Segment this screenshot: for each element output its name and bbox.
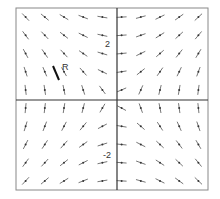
segment-dot [63, 180, 65, 182]
segment-dot [121, 16, 123, 18]
segment-dot [178, 180, 180, 182]
segment-dot [44, 144, 46, 146]
segment-dot [140, 107, 142, 109]
segment-dot [82, 107, 84, 109]
segment-dot [25, 16, 27, 18]
y-tick-label-positive: 2 [105, 39, 110, 49]
segment-dot [178, 71, 180, 73]
segment-dot [44, 89, 46, 91]
segment-dot [121, 125, 123, 127]
segment-dot [140, 53, 142, 55]
segment-dot [63, 16, 65, 18]
segment-dot [25, 53, 27, 55]
segment-dot [82, 89, 84, 91]
segment-dot [159, 144, 161, 146]
segment-dot [121, 144, 123, 146]
segment-dot [101, 107, 103, 109]
segment-dot [63, 34, 65, 36]
segment-dot [140, 89, 142, 91]
segment-dot [178, 89, 180, 91]
y-tick-label-negative: -2 [103, 150, 111, 160]
segment-dot [178, 107, 180, 109]
segment-dot [178, 53, 180, 55]
segment-dot [44, 53, 46, 55]
segment-dot [25, 125, 27, 127]
segment-dot [140, 71, 142, 73]
segment-dot [101, 180, 103, 182]
segment-dot [63, 89, 65, 91]
segment-dot [101, 125, 103, 127]
segment-dot [178, 162, 180, 164]
segment-dot [82, 34, 84, 36]
segment-dot [63, 107, 65, 109]
segment-dot [121, 107, 123, 109]
segment-dot [159, 125, 161, 127]
segment-dot [25, 107, 27, 109]
segment-dot [82, 53, 84, 55]
segment-dot [25, 71, 27, 73]
segment-dot [25, 34, 27, 36]
segment-dot [101, 71, 103, 73]
segment-dot [159, 16, 161, 18]
segment-dot [197, 162, 199, 164]
segment-dot [140, 125, 142, 127]
segment-dot [82, 16, 84, 18]
segment-dot [159, 180, 161, 182]
segment-dot [178, 34, 180, 36]
segment-dot [159, 89, 161, 91]
segment-dot [101, 34, 103, 36]
segment-dot [197, 53, 199, 55]
segment-dot [140, 180, 142, 182]
segment-dot [25, 162, 27, 164]
segment-dot [82, 125, 84, 127]
segment-dot [159, 162, 161, 164]
segment-dot [178, 16, 180, 18]
highlighted-segment [53, 66, 59, 80]
segment-dot [82, 162, 84, 164]
segment-dot [178, 144, 180, 146]
segment-dot [197, 144, 199, 146]
segment-dot [197, 180, 199, 182]
segment-dot [197, 89, 199, 91]
segment-dot [63, 144, 65, 146]
segment-dot [197, 107, 199, 109]
slope-field-diagram: 2 -2 R [0, 0, 220, 199]
segment-dot [140, 162, 142, 164]
segment-dot [121, 162, 123, 164]
segment-dot [121, 34, 123, 36]
segment-dot [121, 53, 123, 55]
segment-dot [178, 125, 180, 127]
segment-dot [44, 16, 46, 18]
segment-dot [44, 162, 46, 164]
segment-dot [44, 125, 46, 127]
segment-dot [101, 53, 103, 55]
segment-dot [101, 162, 103, 164]
segment-dot [44, 180, 46, 182]
segment-dot [140, 144, 142, 146]
segment-dot [63, 162, 65, 164]
segment-dot [159, 107, 161, 109]
segment-dot [197, 16, 199, 18]
segment-dot [82, 144, 84, 146]
segment-dot [159, 34, 161, 36]
segment-dot [44, 107, 46, 109]
segment-dot [44, 34, 46, 36]
segment-dot [121, 71, 123, 73]
segment-dot [121, 89, 123, 91]
segment-dot [25, 144, 27, 146]
segment-dot [25, 89, 27, 91]
segment-dot [197, 34, 199, 36]
point-label-r: R [62, 62, 69, 72]
segment-dot [101, 89, 103, 91]
segment-dot [140, 34, 142, 36]
segment-dot [63, 53, 65, 55]
segment-dot [159, 53, 161, 55]
segment-dot [121, 180, 123, 182]
segment-dot [140, 16, 142, 18]
segment-dot [101, 144, 103, 146]
segment-dot [101, 16, 103, 18]
segment-dot [197, 71, 199, 73]
segment-dot [82, 180, 84, 182]
segment-dot [159, 71, 161, 73]
segment-dot [63, 125, 65, 127]
